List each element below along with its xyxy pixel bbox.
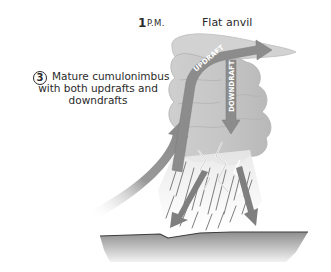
cumulonimbus-diagram: UPDRAFT DOWNDRAFT 1 P.M. Flat anvil 3 Ma…	[0, 0, 331, 272]
stage-description-line: downdrafts	[38, 94, 158, 106]
ground-surface	[100, 232, 308, 262]
time-unit: P.M.	[147, 18, 165, 28]
diagram-graphic: UPDRAFT DOWNDRAFT	[0, 0, 331, 272]
stage-description-line: Mature cumulonimbus	[38, 70, 158, 82]
time-hour: 1	[138, 16, 146, 30]
stage-description-line: with both updrafts and	[38, 82, 158, 94]
stage-description: Mature cumulonimbus with both updrafts a…	[38, 70, 158, 106]
downdraft-label: DOWNDRAFT	[228, 60, 236, 112]
flat-anvil-label: Flat anvil	[202, 16, 252, 29]
